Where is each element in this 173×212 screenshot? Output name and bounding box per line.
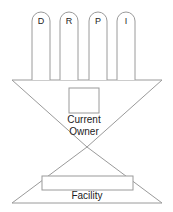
top-bar-label-d: D [32,17,50,26]
top-bar-label-r: R [60,17,78,26]
facility-label: Facility [47,191,127,201]
bowtie-diagram-graphic [0,0,173,212]
current-owner-label-line2: Owner [54,127,114,137]
diagram-canvas: D R P I Current Owner Facility [0,0,173,212]
current-owner-label-line1: Current [54,115,114,125]
top-bar-label-p: P [89,17,107,26]
facility-box[interactable] [42,176,133,190]
top-bar-label-i: I [117,17,135,26]
current-owner-box[interactable] [69,88,99,113]
